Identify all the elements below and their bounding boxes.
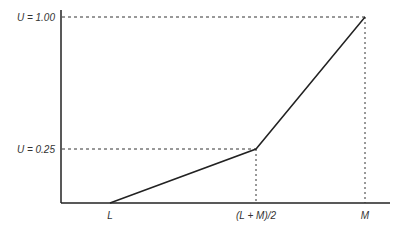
x-label-mid: (L + M)/2 [236, 210, 277, 221]
y-label-high: U = 1.00 [17, 12, 56, 23]
utility-chart: U = 1.00 U = 0.25 L (L + M)/2 M [0, 0, 410, 229]
y-label-high-text: U = 1.00 [17, 12, 56, 23]
x-label-m: M [361, 210, 370, 221]
y-label-low: U = 0.25 [17, 144, 56, 155]
x-label-l: L [107, 210, 113, 221]
y-label-low-text: U = 0.25 [17, 144, 56, 155]
utility-line [110, 17, 365, 203]
